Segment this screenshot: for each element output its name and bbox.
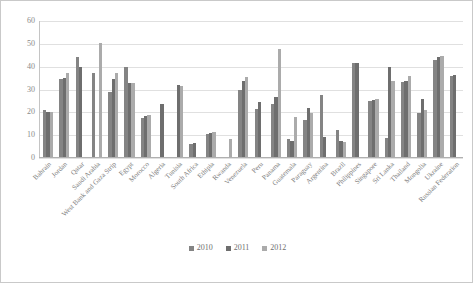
y-axis-tick-label: 20	[27, 108, 35, 116]
legend-label: 2010	[197, 244, 213, 252]
bar-group	[186, 21, 202, 157]
bar	[343, 142, 346, 157]
bar	[323, 137, 326, 157]
bar-group	[105, 21, 121, 157]
bar-group	[235, 21, 251, 157]
chart-container: 0102030405060 BahrainJordanQatarSaudi Ar…	[0, 0, 473, 283]
bar-group	[89, 21, 105, 157]
bar	[147, 115, 150, 157]
bar	[278, 49, 281, 157]
bar-group	[203, 21, 219, 157]
bar	[160, 104, 163, 157]
bars-layer	[40, 21, 463, 157]
plot-area: 0102030405060	[39, 21, 463, 158]
bar-group	[365, 21, 381, 157]
y-axis-tick-label: 40	[27, 63, 35, 71]
x-axis-tick-label: Bahrain	[32, 161, 53, 182]
y-axis-tick-label: 30	[27, 86, 35, 94]
bar-group	[73, 21, 89, 157]
y-axis-tick-label: 60	[27, 17, 35, 25]
bar-group	[317, 21, 333, 157]
bar-group	[398, 21, 414, 157]
legend-item[interactable]: 2010	[189, 244, 213, 252]
bar-group	[138, 21, 154, 157]
bar	[440, 56, 443, 157]
bar-group	[40, 21, 56, 157]
bar	[66, 73, 69, 157]
bar	[355, 63, 358, 157]
x-axis-line	[39, 157, 463, 158]
bar	[180, 86, 183, 157]
legend-swatch-icon	[262, 246, 267, 251]
bar	[79, 67, 82, 157]
y-axis-tick-label: 0	[31, 154, 35, 162]
bar	[375, 99, 378, 157]
bar	[258, 102, 261, 157]
bar	[453, 75, 456, 157]
y-axis-tick-label: 50	[27, 40, 35, 48]
bar-group	[268, 21, 284, 157]
legend-swatch-icon	[226, 246, 231, 251]
bar-group	[414, 21, 430, 157]
bar-group	[333, 21, 349, 157]
bar	[131, 83, 134, 157]
bar-group	[56, 21, 72, 157]
chart-legend: 201020112012	[1, 244, 473, 252]
bar	[92, 73, 95, 157]
bar-group	[430, 21, 446, 157]
bar-group	[251, 21, 267, 157]
bar	[294, 117, 297, 157]
legend-item[interactable]: 2012	[262, 244, 286, 252]
bar-group	[349, 21, 365, 157]
legend-label: 2011	[234, 244, 250, 252]
bar	[229, 139, 232, 157]
legend-swatch-icon	[189, 246, 194, 251]
legend-label: 2012	[270, 244, 286, 252]
bar	[115, 73, 118, 157]
bar-group	[300, 21, 316, 157]
x-label-slot: Venezuela	[236, 159, 252, 234]
bar	[193, 143, 196, 157]
bar	[99, 43, 102, 157]
bar	[50, 112, 53, 157]
bar	[212, 132, 215, 157]
bar-group	[447, 21, 463, 157]
x-label-slot: Russian Federation	[448, 159, 464, 234]
bar-group	[154, 21, 170, 157]
bar	[408, 76, 411, 157]
bar-group	[382, 21, 398, 157]
bar-group	[121, 21, 137, 157]
bar	[391, 81, 394, 157]
legend-item[interactable]: 2011	[226, 244, 250, 252]
bar-group	[219, 21, 235, 157]
bar	[424, 110, 427, 157]
x-axis-tick-labels: BahrainJordanQatarSaudi ArabiaWest Bank …	[40, 159, 464, 234]
bar	[310, 113, 313, 157]
y-axis-tick-label: 10	[27, 131, 35, 139]
bar-group	[284, 21, 300, 157]
bar	[245, 77, 248, 157]
bar-group	[170, 21, 186, 157]
